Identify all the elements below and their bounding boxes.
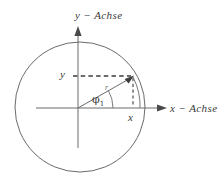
x-axis-label: x − Achse xyxy=(170,103,217,114)
angle-arc xyxy=(108,90,113,108)
x-coordinate-label: x xyxy=(128,112,133,123)
radius-label: r xyxy=(105,84,108,92)
radius-measure-arc xyxy=(133,77,140,108)
angle-phi-glyph: φ xyxy=(92,93,100,106)
y-coordinate-label: y xyxy=(60,69,65,80)
x-axis-arrowhead xyxy=(157,104,167,111)
y-axis-arrowhead xyxy=(74,26,81,36)
polar-coordinate-diagram: y − Achse x − Achse y x r φ1 xyxy=(0,0,223,182)
angle-phi-label: φ1 xyxy=(92,94,104,108)
angle-phi-subscript: 1 xyxy=(100,100,104,108)
y-axis-label: y − Achse xyxy=(75,10,122,21)
diagram-canvas xyxy=(0,0,223,182)
